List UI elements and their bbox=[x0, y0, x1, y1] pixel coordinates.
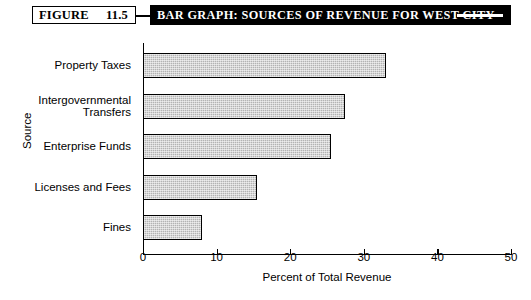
connector-line bbox=[136, 15, 150, 17]
figure-header: FIGURE 11.5 BAR GRAPH: SOURCES OF REVENU… bbox=[0, 0, 531, 34]
bar bbox=[143, 134, 331, 159]
figure-title-banner: BAR GRAPH: SOURCES OF REVENUE FOR WEST C… bbox=[150, 5, 511, 25]
x-axis-tick-label: 40 bbox=[417, 251, 457, 263]
bar bbox=[143, 94, 345, 119]
x-axis-tick-label: 0 bbox=[123, 251, 163, 263]
banner-rule bbox=[457, 14, 503, 17]
y-axis-tick-label: Fines bbox=[0, 221, 131, 234]
figure-number: 11.5 bbox=[106, 8, 128, 23]
figure-number-box: FIGURE 11.5 bbox=[32, 6, 136, 24]
y-axis-tick-label: Property Taxes bbox=[0, 59, 131, 72]
x-axis-tick-label: 30 bbox=[344, 251, 384, 263]
bar bbox=[143, 215, 202, 240]
y-axis-tick-label: Licenses and Fees bbox=[0, 181, 131, 194]
bar bbox=[143, 53, 386, 78]
x-axis-tick-label: 10 bbox=[197, 251, 237, 263]
bar-chart: Source Property TaxesIntergovernmental T… bbox=[0, 34, 531, 300]
bar bbox=[143, 175, 257, 200]
x-axis-tick-label: 20 bbox=[270, 251, 310, 263]
x-axis-title: Percent of Total Revenue bbox=[143, 271, 511, 283]
plot-area bbox=[143, 43, 511, 255]
y-axis-tick-label: Enterprise Funds bbox=[0, 140, 131, 153]
figure-label: FIGURE bbox=[39, 8, 89, 23]
x-axis-tick-label: 50 bbox=[491, 251, 531, 263]
y-axis-tick-labels: Property TaxesIntergovernmental Transfer… bbox=[0, 34, 137, 300]
y-axis-tick-label: Intergovernmental Transfers bbox=[0, 94, 131, 119]
figure-title-text: BAR GRAPH: SOURCES OF REVENUE FOR WEST C… bbox=[157, 8, 495, 23]
